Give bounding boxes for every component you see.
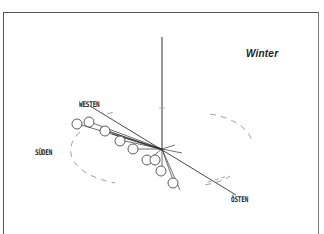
sun-circle: [156, 166, 166, 176]
label-south: SÜDEN: [35, 147, 52, 156]
label-west: WESTEN: [79, 99, 99, 108]
sun-circle: [72, 119, 82, 129]
sun-circle: [84, 117, 94, 127]
sun-circle: [128, 144, 138, 154]
sun-circle: [168, 178, 178, 188]
sun-path-diagram: [0, 0, 324, 234]
sun-circle: [115, 136, 125, 146]
sun-circle: [150, 155, 160, 165]
sun-circle: [100, 126, 110, 136]
season-title: Winter: [246, 48, 278, 59]
east-tick: [208, 176, 228, 182]
label-east: ÖSTEN: [231, 194, 248, 203]
sun-rays: [78, 122, 182, 190]
